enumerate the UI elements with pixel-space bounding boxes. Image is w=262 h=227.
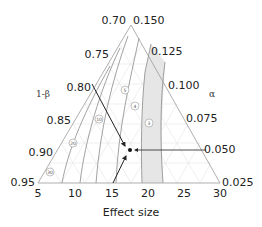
svg-text:0.85: 0.85 <box>47 114 72 127</box>
svg-text:30: 30 <box>213 187 227 200</box>
svg-text:0.75: 0.75 <box>85 48 110 61</box>
x-axis-label: Effect size <box>103 206 160 219</box>
ternary-chart: 30 20 10 5 4 3 0.70 0.75 0.80 0.85 0.90 … <box>0 0 262 227</box>
svg-text:0.125: 0.125 <box>151 45 183 58</box>
svg-text:0.150: 0.150 <box>133 14 165 27</box>
right-axis-label: α <box>209 89 215 99</box>
bottom-ticks: 5 10 15 20 25 30 <box>35 187 228 200</box>
effect-size-arrow <box>113 156 126 183</box>
svg-text:15: 15 <box>105 187 119 200</box>
highlighted-point <box>128 148 132 152</box>
svg-text:20: 20 <box>141 187 155 200</box>
svg-text:10: 10 <box>68 187 82 200</box>
svg-text:5: 5 <box>124 88 127 93</box>
svg-text:0.90: 0.90 <box>29 146 54 159</box>
power-arrow <box>92 84 125 146</box>
svg-text:0.80: 0.80 <box>67 81 92 94</box>
svg-text:25: 25 <box>177 187 191 200</box>
left-axis-label: 1-β <box>36 89 50 99</box>
svg-text:0.95: 0.95 <box>11 176 36 189</box>
svg-text:0.075: 0.075 <box>186 112 218 125</box>
svg-text:3: 3 <box>148 121 151 126</box>
svg-text:30: 30 <box>47 170 53 175</box>
svg-text:4: 4 <box>134 104 137 109</box>
svg-text:0.050: 0.050 <box>204 143 236 156</box>
svg-text:0.100: 0.100 <box>168 79 200 92</box>
svg-text:20: 20 <box>70 141 76 146</box>
svg-text:5: 5 <box>35 187 42 200</box>
svg-text:0.70: 0.70 <box>102 14 127 27</box>
svg-text:10: 10 <box>96 117 102 122</box>
